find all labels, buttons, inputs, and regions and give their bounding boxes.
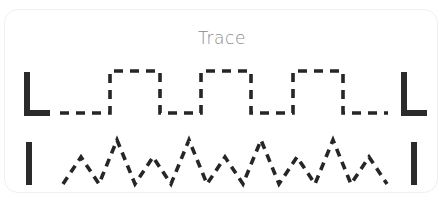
zigzag-svg [5,128,439,194]
worksheet-card: Trace [4,9,438,193]
left-guide-letter-l-icon [27,72,50,113]
square-wave-trace-path[interactable] [60,71,388,113]
square-wave-svg [5,55,439,123]
right-guide-letter-l-icon [404,72,427,113]
zigzag-trace-path[interactable] [63,140,387,184]
page-title: Trace [5,30,439,47]
square-wave-row[interactable] [5,55,439,123]
zigzag-row[interactable] [5,128,439,194]
